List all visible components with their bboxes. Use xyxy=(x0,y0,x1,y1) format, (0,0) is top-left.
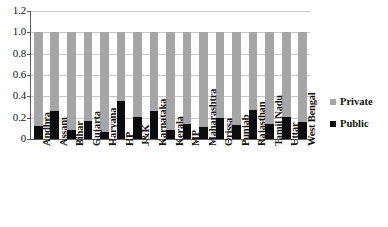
bar-segment-private[interactable] xyxy=(117,32,126,100)
x-axis-line xyxy=(30,139,311,140)
x-tick-mark xyxy=(129,139,130,143)
bar-segment-private[interactable] xyxy=(265,32,274,124)
bar-segment-private[interactable] xyxy=(282,32,291,116)
bar-segment-private[interactable] xyxy=(199,32,208,127)
legend-label-private: Private xyxy=(340,96,373,108)
bar-group[interactable] xyxy=(100,11,109,139)
y-tick-label: 0 xyxy=(0,133,26,144)
bar-group[interactable] xyxy=(249,11,258,139)
x-tick-mark xyxy=(195,139,196,143)
x-tick-mark xyxy=(96,139,97,143)
bar-segment-public[interactable] xyxy=(249,110,258,139)
bar-group[interactable] xyxy=(298,11,307,139)
bar-segment-public[interactable] xyxy=(50,111,59,139)
chart-legend: Private Public xyxy=(330,96,373,140)
bar-segment-public[interactable] xyxy=(133,117,142,139)
bar-segment-public[interactable] xyxy=(232,125,241,139)
bar-segment-private[interactable] xyxy=(34,32,43,126)
y-tick-mark xyxy=(27,54,31,55)
y-tick-label: 0.8 xyxy=(0,48,26,59)
y-tick-mark xyxy=(27,75,31,76)
bar-segment-public[interactable] xyxy=(84,121,93,139)
bar-segment-public[interactable] xyxy=(117,101,126,139)
y-tick-label: 0.2 xyxy=(0,112,26,123)
bar-group[interactable] xyxy=(216,11,225,139)
stacked-bar-chart: 00.20.40.60.81.01.2 AndhraAssamBiharGuja… xyxy=(0,0,388,227)
legend-swatch-private-icon xyxy=(330,99,336,105)
x-tick-mark xyxy=(245,139,246,143)
x-tick-mark xyxy=(311,139,312,143)
bar-segment-public[interactable] xyxy=(166,130,175,139)
bar-segment-private[interactable] xyxy=(298,32,307,122)
x-tick-mark xyxy=(113,139,114,143)
bar-group[interactable] xyxy=(232,11,241,139)
bar-segment-public[interactable] xyxy=(100,132,109,139)
bar-segment-private[interactable] xyxy=(67,32,76,130)
bar-segment-private[interactable] xyxy=(133,32,142,116)
bar-segment-private[interactable] xyxy=(216,32,225,117)
bar-segment-public[interactable] xyxy=(150,111,159,139)
bar-group[interactable] xyxy=(183,11,192,139)
bar-group[interactable] xyxy=(166,11,175,139)
x-tick-mark xyxy=(278,139,279,143)
y-axis-labels: 00.20.40.60.81.01.2 xyxy=(0,0,26,227)
bar-segment-public[interactable] xyxy=(298,122,307,139)
x-tick-mark xyxy=(146,139,147,143)
x-tick-mark xyxy=(47,139,48,143)
bar-group[interactable] xyxy=(265,11,274,139)
x-tick-mark xyxy=(179,139,180,143)
bar-segment-public[interactable] xyxy=(282,117,291,139)
legend-swatch-public-icon xyxy=(330,121,336,127)
bar-segment-private[interactable] xyxy=(232,32,241,125)
bar-segment-public[interactable] xyxy=(67,130,76,139)
x-tick-mark xyxy=(63,139,64,143)
bar-group[interactable] xyxy=(84,11,93,139)
y-tick-mark xyxy=(27,11,31,12)
x-tick-mark xyxy=(80,139,81,143)
bar-segment-private[interactable] xyxy=(166,32,175,130)
legend-item-private[interactable]: Private xyxy=(330,96,373,108)
x-tick-mark xyxy=(212,139,213,143)
y-tick-mark xyxy=(27,118,31,119)
bar-segment-private[interactable] xyxy=(249,32,258,110)
bar-segment-public[interactable] xyxy=(34,126,43,139)
y-tick-label: 1.0 xyxy=(0,26,26,37)
bar-segment-private[interactable] xyxy=(50,32,59,111)
y-tick-mark xyxy=(27,139,31,140)
bar-group[interactable] xyxy=(117,11,126,139)
bar-segment-private[interactable] xyxy=(100,32,109,131)
bar-segment-public[interactable] xyxy=(199,127,208,139)
y-tick-label: 1.2 xyxy=(0,5,26,16)
bar-segment-private[interactable] xyxy=(183,32,192,124)
y-tick-mark xyxy=(27,32,31,33)
bar-group[interactable] xyxy=(199,11,208,139)
legend-item-public[interactable]: Public xyxy=(330,118,373,130)
y-tick-label: 0.6 xyxy=(0,69,26,80)
bar-segment-public[interactable] xyxy=(265,124,274,139)
bar-group[interactable] xyxy=(282,11,291,139)
x-tick-mark xyxy=(228,139,229,143)
bar-group[interactable] xyxy=(34,11,43,139)
x-tick-mark xyxy=(261,139,262,143)
bar-group[interactable] xyxy=(133,11,142,139)
bar-group[interactable] xyxy=(150,11,159,139)
x-tick-mark xyxy=(294,139,295,143)
legend-label-public: Public xyxy=(340,118,369,130)
bar-segment-public[interactable] xyxy=(183,124,192,139)
bar-series-group xyxy=(30,11,311,139)
bar-group[interactable] xyxy=(50,11,59,139)
bar-segment-public[interactable] xyxy=(216,118,225,139)
x-tick-mark xyxy=(162,139,163,143)
bar-segment-private[interactable] xyxy=(84,32,93,121)
y-tick-mark xyxy=(27,96,31,97)
bar-segment-private[interactable] xyxy=(150,32,159,111)
bar-group[interactable] xyxy=(67,11,76,139)
y-tick-label: 0.4 xyxy=(0,90,26,101)
